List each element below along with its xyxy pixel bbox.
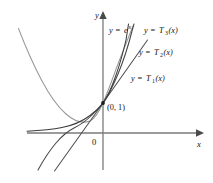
label-exp: y = e x <box>108 24 132 35</box>
label-t3-lhs: y <box>143 26 148 35</box>
label-t3-equals: = <box>151 26 156 35</box>
label-t1-lhs: y <box>130 74 135 83</box>
x-axis-arrowhead <box>196 129 204 136</box>
label-exp-exponent: x <box>128 24 132 30</box>
x-axis-label: x <box>196 139 201 149</box>
y-axis-label: y <box>94 10 99 20</box>
curves-group <box>19 24 148 171</box>
label-t2: y = T 2 (x) <box>138 48 173 58</box>
label-t3: y = T 3 (x) <box>143 26 178 36</box>
label-t2-equals: = <box>146 48 151 57</box>
label-exp-lhs: y <box>108 26 113 35</box>
label-exp-base: e <box>124 26 128 35</box>
point-label: (0, 1) <box>107 103 125 112</box>
label-exp-equals: = <box>116 26 121 35</box>
taylor-approximation-plot: y x 0 (0, 1) y = e x y = T 3 (x) y = T 2… <box>0 0 213 183</box>
label-t2-arg: (x) <box>164 48 173 57</box>
y-axis-arrowhead <box>99 11 106 19</box>
figure-container: y x 0 (0, 1) y = e x y = T 3 (x) y = T 2… <box>0 0 213 183</box>
label-t3-arg: (x) <box>169 26 178 35</box>
label-t1: y = T 1 (x) <box>130 74 165 84</box>
label-t1-arg: (x) <box>156 74 165 83</box>
curve-t3 <box>38 24 134 170</box>
label-t1-equals: = <box>138 74 143 83</box>
label-t2-lhs: y <box>138 48 143 57</box>
point-0-1-marker <box>101 101 105 105</box>
origin-label: 0 <box>92 137 96 147</box>
